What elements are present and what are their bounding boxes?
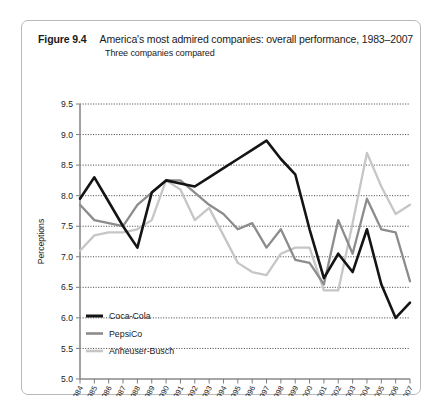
- x-axis-tick-label: 1998: [270, 384, 286, 396]
- y-axis-tick-label: 7.5: [61, 221, 73, 231]
- chart-axes: [76, 104, 410, 384]
- legend-label: PepsiCo: [109, 329, 142, 339]
- x-axis-tick-label: 2001: [313, 384, 329, 396]
- y-axis-tick-label: 5.0: [61, 374, 73, 384]
- x-axis-tick-label: 1999: [284, 384, 300, 396]
- x-axis-tick-label: 1994: [213, 384, 229, 396]
- x-axis-tick-label: 1984: [69, 384, 85, 396]
- y-axis-tick-labels: 5.05.56.06.57.07.58.08.59.09.5: [61, 99, 73, 384]
- legend-label: Coca-Cola: [109, 311, 151, 321]
- x-axis-tick-label: 1993: [198, 384, 214, 396]
- x-axis-tick-label: 1985: [83, 384, 99, 396]
- y-axis-tick-label: 5.5: [61, 344, 73, 354]
- x-axis-tick-label: 2000: [299, 384, 315, 396]
- x-axis-tick-label: 1995: [227, 384, 243, 396]
- y-axis-tick-label: 6.0: [61, 313, 73, 323]
- x-axis-tick-label: 2004: [356, 384, 372, 396]
- x-axis-tick-label: 2005: [370, 384, 386, 396]
- x-axis-tick-label: 1991: [170, 384, 186, 396]
- y-axis-tick-label: 8.0: [61, 191, 73, 201]
- x-axis-tick-label: 1989: [141, 384, 157, 396]
- x-axis-tick-label: 2003: [342, 384, 358, 396]
- legend-label: Anheuser-Busch: [109, 346, 174, 356]
- y-axis-tick-label: 9.0: [61, 130, 73, 140]
- data-series: [80, 141, 410, 318]
- y-axis-tick-label: 7.0: [61, 252, 73, 262]
- x-axis-tick-label: 1996: [241, 384, 257, 396]
- y-axis-title: Perceptions: [36, 219, 46, 264]
- x-axis-tick-label: 1986: [98, 384, 114, 396]
- chart-plot-area: 5.05.56.06.57.07.58.08.59.09.5 198419851…: [22, 21, 422, 396]
- x-axis-tick-label: 1997: [256, 384, 272, 396]
- x-axis-tick-label: 2002: [327, 384, 343, 396]
- x-axis-tick-labels: 1984198519861987198819891990199119921993…: [69, 384, 415, 396]
- y-axis-tick-label: 6.5: [61, 282, 73, 292]
- x-axis-tick-label: 2006: [385, 384, 401, 396]
- series-line-coca-cola: [80, 141, 410, 318]
- x-axis-tick-label: 1988: [126, 384, 142, 396]
- y-axis-title-label: Perceptions: [36, 219, 46, 264]
- figure-container: Figure 9.4 America's most admired compan…: [21, 20, 421, 395]
- x-axis-tick-label: 1987: [112, 384, 128, 396]
- y-axis-tick-label: 9.5: [61, 99, 73, 109]
- x-axis-tick-label: 1992: [184, 384, 200, 396]
- y-axis-tick-label: 8.5: [61, 160, 73, 170]
- x-axis-tick-label: 1990: [155, 384, 171, 396]
- x-axis-tick-label: 2007: [399, 384, 415, 396]
- line-chart: 5.05.56.06.57.07.58.08.59.09.5 198419851…: [22, 21, 422, 396]
